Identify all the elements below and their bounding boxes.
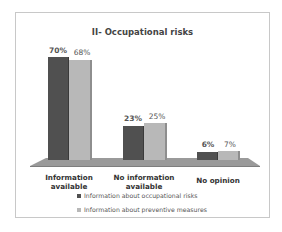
bar-preventive-no-info (144, 123, 167, 160)
legend-item-occupational-risks: Information about occupational risks (77, 192, 197, 199)
legend-item-preventive-measures: Information about preventive measures (77, 206, 207, 213)
bar-occupational-no-opinion (197, 152, 218, 160)
category-label-line: No opinion (183, 176, 253, 185)
category-label-no-information-available: No information available (109, 173, 179, 191)
category-label-line: available (109, 182, 179, 191)
value-label: 7% (218, 140, 242, 149)
value-label: 70% (46, 46, 70, 55)
value-label: 23% (121, 114, 145, 123)
value-label: 25% (145, 112, 169, 121)
category-label-line: No information (109, 173, 179, 182)
legend-swatch-light (77, 208, 81, 212)
value-label: 68% (70, 48, 94, 57)
bar-occupational-info-available (48, 57, 69, 160)
legend-swatch-dark (77, 194, 81, 198)
bar-preventive-no-opinion (218, 151, 240, 160)
chart-frame: II- Occupational risks 70% 68% 23% 25% 6… (15, 12, 270, 218)
value-label: 6% (196, 140, 220, 149)
category-label-line: available (34, 182, 104, 191)
bar-preventive-info-available (69, 60, 92, 160)
category-label-line: Information (34, 173, 104, 182)
category-label-no-opinion: No opinion (183, 176, 253, 185)
bar-occupational-no-info (123, 126, 144, 160)
legend-label: Information about occupational risks (84, 192, 197, 199)
legend-label: Information about preventive measures (84, 206, 207, 213)
category-label-information-available: Information available (34, 173, 104, 191)
